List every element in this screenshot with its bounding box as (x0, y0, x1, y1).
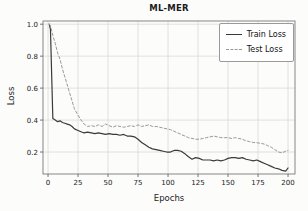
y-tick-label: 1.0 (27, 21, 38, 29)
x-tick-label: 25 (74, 179, 83, 187)
y-axis-label: Loss (6, 84, 16, 108)
x-tick-label: 125 (191, 179, 204, 187)
y-tick-label: 0.4 (27, 117, 39, 125)
x-tick-label: 75 (134, 179, 143, 187)
legend-label-train-loss: Train Loss (247, 30, 286, 39)
y-tick-label: 0.2 (27, 149, 38, 157)
legend-item-train-loss: Train Loss (226, 27, 286, 42)
x-tick-label: 200 (281, 179, 294, 187)
x-tick-label: 150 (221, 179, 234, 187)
y-tick-label: 0.6 (27, 85, 39, 93)
x-axis-label: Epochs (43, 193, 295, 203)
loss-chart-figure: 02550751001251501752000.20.40.60.81.0 ML… (0, 0, 308, 211)
x-tick-label: 50 (104, 179, 113, 187)
test-loss-line-swatch (226, 49, 242, 50)
y-tick-label: 0.8 (27, 53, 38, 61)
legend: Train Loss Test Loss (219, 23, 294, 62)
chart-title: ML-MER (43, 3, 295, 13)
x-tick-label: 175 (251, 179, 264, 187)
x-tick-label: 100 (161, 179, 174, 187)
legend-item-test-loss: Test Loss (226, 42, 286, 57)
train-loss-line-swatch (226, 34, 242, 35)
legend-label-test-loss: Test Loss (247, 45, 283, 54)
x-tick-label: 0 (46, 179, 50, 187)
